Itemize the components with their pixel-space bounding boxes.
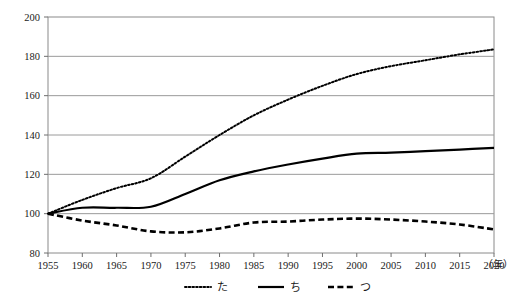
x-tick-label-2005: 2005 xyxy=(381,260,402,271)
y-tick-label-100: 100 xyxy=(24,208,40,219)
x-tick-label-1955: 1955 xyxy=(38,260,59,271)
y-tick-label-80: 80 xyxy=(30,248,41,259)
x-tick-label-1985: 1985 xyxy=(243,260,264,271)
y-tick-label-180: 180 xyxy=(24,51,40,62)
legend-label-1: ち xyxy=(290,281,301,293)
y-tick-label-120: 120 xyxy=(24,169,40,180)
legend-label-2: つ xyxy=(360,281,371,293)
x-tick-label-1965: 1965 xyxy=(106,260,127,271)
x-tick-label-1975: 1975 xyxy=(175,260,196,271)
x-tick-label-1980: 1980 xyxy=(209,260,230,271)
y-tick-label-140: 140 xyxy=(24,130,40,141)
x-tick-label-2000: 2000 xyxy=(346,260,367,271)
x-tick-label-1970: 1970 xyxy=(140,260,161,271)
x-tick-label-2010: 2010 xyxy=(415,260,436,271)
line-chart: 80100120140160180200 1955196019651970197… xyxy=(0,0,517,303)
legend-label-0: た xyxy=(217,281,228,293)
y-tick-label-160: 160 xyxy=(24,90,40,101)
x-axis-unit-label: （年） xyxy=(483,258,513,270)
y-tick-label-200: 200 xyxy=(24,12,40,23)
x-tick-label-1990: 1990 xyxy=(278,260,299,271)
x-tick-label-2015: 2015 xyxy=(449,260,470,271)
chart-canvas: 80100120140160180200 1955196019651970197… xyxy=(0,0,517,303)
x-tick-label-1960: 1960 xyxy=(72,260,93,271)
x-tick-label-1995: 1995 xyxy=(312,260,333,271)
